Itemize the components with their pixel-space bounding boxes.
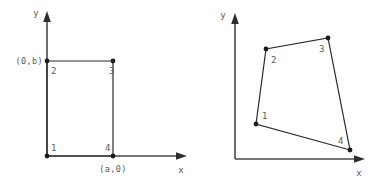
right-x-axis-label: x [356,168,362,178]
left-y-axis-label: y [33,8,39,18]
left-x-axis-arrowhead [176,152,187,160]
left-vertex-1-dot [45,154,50,159]
left-coord-label-0b: (0,b) [15,56,43,66]
right-vertex-3-dot [326,36,331,41]
right-vertex-1-dot [254,122,259,127]
right-figure-quadrilateral: y x 1 2 3 4 [195,0,390,180]
left-vertex-3-dot [111,59,116,64]
left-y-axis-arrowhead [43,11,51,22]
right-vertex-4-label: 4 [338,136,343,146]
right-vertex-2-label: 2 [271,55,276,65]
left-vertex-1-label: 1 [51,143,56,153]
right-y-axis-label: y [220,10,226,20]
right-vertex-1-label: 1 [262,111,267,121]
left-rectangle-outline [47,61,113,156]
right-x-axis-arrowhead [354,155,365,163]
right-vertex-2-dot [264,47,269,52]
right-vertex-4-dot [348,148,353,153]
left-vertex-3-label: 3 [109,66,114,76]
left-coord-label-a0: (a,0) [99,164,127,174]
right-y-axis-arrowhead [231,13,239,24]
left-vertex-4-dot [111,154,116,159]
left-figure-rectangle: y x 1 2 3 4 (0,b) (a,0) [0,0,195,180]
left-vertex-2-dot [45,59,50,64]
left-x-axis-label: x [178,165,184,175]
left-vertex-4-label: 4 [105,143,110,153]
left-vertex-2-label: 2 [51,66,56,76]
right-vertex-3-label: 3 [319,44,324,54]
figure-pair: y x 1 2 3 4 (0,b) (a,0) y x [0,0,390,180]
